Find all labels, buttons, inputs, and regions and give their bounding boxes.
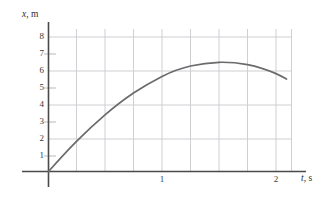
ytick-label-6: 6 [30, 66, 44, 75]
displacement-curve [49, 62, 287, 171]
y-axis-title: x, m [22, 10, 38, 20]
gridlines-horizontal [48, 37, 292, 139]
ytick-label-8: 8 [30, 32, 44, 41]
ytick-label-1: 1 [30, 151, 44, 160]
gridlines-vertical [77, 29, 292, 172]
ytick-label-7: 7 [30, 49, 44, 58]
x-axis-title: t, s [301, 174, 312, 184]
ytick-label-2: 2 [30, 134, 44, 143]
xtick-label-2: 2 [268, 175, 284, 184]
displacement-time-chart: 8 7 6 5 4 3 2 1 1 2 x, m t, s [0, 0, 332, 203]
ytick-label-5: 5 [30, 83, 44, 92]
xtick-label-1: 1 [154, 175, 170, 184]
ytick-label-4: 4 [30, 100, 44, 109]
x-axis-unit: , s [304, 173, 312, 183]
y-axis-unit: , m [26, 9, 38, 19]
chart-canvas [0, 0, 332, 203]
ytick-label-3: 3 [30, 117, 44, 126]
